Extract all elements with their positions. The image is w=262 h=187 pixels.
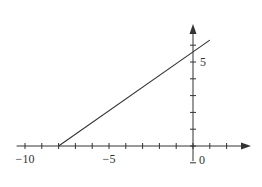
tick-labels: −10−505	[16, 55, 206, 167]
x-tick-label: −5	[103, 152, 116, 166]
y-axis-arrow-icon	[190, 24, 197, 34]
x-tick-label: −10	[16, 152, 35, 166]
x-tick-label: 0	[199, 153, 205, 167]
data-series	[59, 40, 210, 146]
x-axis-arrow-icon	[241, 143, 251, 150]
chart: −10−505	[0, 0, 262, 187]
y-tick-label: 5	[200, 55, 206, 69]
series-line	[59, 40, 210, 146]
